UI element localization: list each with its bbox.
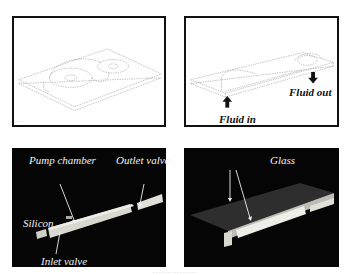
cad-drawing-pump <box>186 18 337 125</box>
fluid-out-arrow-icon <box>308 72 318 84</box>
corner-stamp: ........ <box>16 119 24 123</box>
panel-bottom-left: Pump chamber Outlet valve Silicon Inlet … <box>12 148 166 267</box>
corner-stamp: ........ <box>188 119 196 123</box>
label-outlet-valve: Outlet valve <box>116 155 169 166</box>
label-inlet-valve: Inlet valve <box>41 256 87 267</box>
panel-top-right: Fluid out Fluid in ........ <box>184 16 339 127</box>
cad-drawing-plate <box>14 18 164 125</box>
label-pump-chamber: Pump chamber <box>29 155 96 166</box>
panel-top-left: ........ <box>12 16 166 127</box>
render-glass-cover <box>184 148 339 267</box>
label-glass: Glass <box>270 155 295 166</box>
label-silicon: Silicon <box>23 218 54 229</box>
panel-bottom-right: Glass <box>184 148 339 267</box>
figure-caption: . . . . . . . . . . . . . . . <box>0 268 350 274</box>
label-fluid-in: Fluid in <box>219 114 256 125</box>
label-fluid-out: Fluid out <box>289 87 332 98</box>
fluid-in-arrow-icon <box>222 96 232 108</box>
